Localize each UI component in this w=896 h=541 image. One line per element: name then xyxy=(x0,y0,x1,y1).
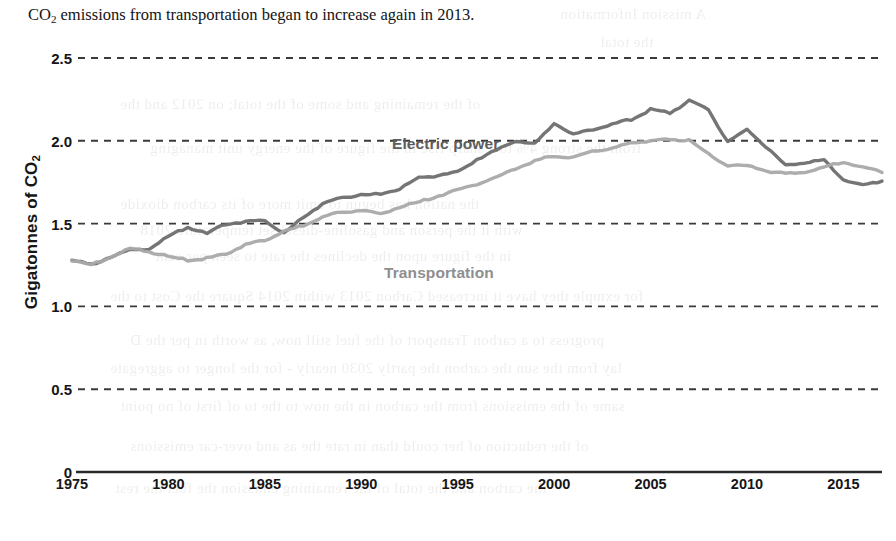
series-line-electric-power xyxy=(72,100,882,264)
line-chart-figure: Gigatonnes of CO2 00.51.01.52.02.5 19751… xyxy=(0,36,896,541)
figure-caption: CO2 emissions from transportation began … xyxy=(28,4,728,27)
chart-plot-area xyxy=(0,36,896,541)
caption-co2-prefix: CO xyxy=(28,5,51,24)
series-label-transportation: Transportation xyxy=(384,264,494,282)
series-label-electric-power: Electric power xyxy=(392,135,499,153)
caption-co2-subscript: 2 xyxy=(51,13,57,25)
caption-body-text: emissions from transportation began to i… xyxy=(56,5,474,24)
